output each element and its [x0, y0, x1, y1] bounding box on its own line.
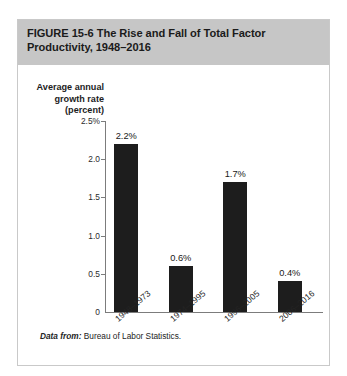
chart-plot-area: Average annual growth rate (percent) 2.5… — [18, 65, 329, 367]
bar-value-label: 1.7% — [212, 169, 258, 179]
figure-card: FIGURE 15-6 The Rise and Fall of Total F… — [17, 19, 330, 366]
bars-layer: 2.2%0.6%1.7%0.4% — [106, 121, 324, 312]
y-axis-title: Average annual growth rate (percent) — [24, 82, 104, 117]
bar[interactable] — [223, 182, 247, 312]
source-note-text: Bureau of Labor Statistics. — [82, 331, 182, 341]
y-axis-tick-label: 0 — [48, 308, 100, 316]
bar-group[interactable]: 0.6% — [169, 121, 193, 312]
bar-value-label: 2.2% — [103, 131, 149, 141]
bar[interactable] — [114, 144, 138, 312]
figure-header-banner: FIGURE 15-6 The Rise and Fall of Total F… — [18, 20, 329, 65]
source-note-lead: Data from: — [40, 331, 82, 341]
bar-group[interactable]: 2.2% — [114, 121, 138, 312]
bar-group[interactable]: 1.7% — [223, 121, 247, 312]
bar-group[interactable]: 0.4% — [278, 121, 302, 312]
bar-value-label: 0.4% — [267, 268, 313, 278]
y-axis-tick-label: 0.5 — [48, 270, 100, 278]
y-axis-tick-label: 2.0 — [48, 155, 100, 163]
source-note: Data from: Bureau of Labor Statistics. — [40, 331, 181, 341]
y-axis-tick-label: 1.5 — [48, 193, 100, 201]
y-axis-tick-label: 1.0 — [48, 232, 100, 240]
bar-value-label: 0.6% — [158, 253, 204, 263]
figure-title: FIGURE 15-6 The Rise and Fall of Total F… — [27, 26, 319, 55]
y-axis-tick-label: 2.5% — [48, 117, 100, 125]
